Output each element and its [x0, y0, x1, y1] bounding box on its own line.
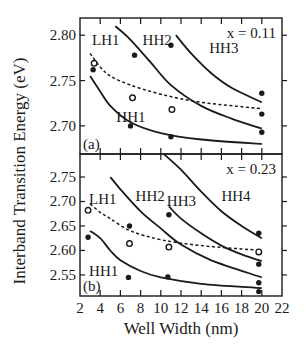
- y-tick-label: 2.70: [50, 118, 76, 134]
- data-point-filled: [259, 91, 264, 96]
- data-point-filled: [256, 289, 261, 294]
- y-tick-label: 2.70: [50, 193, 76, 209]
- curve-label-hh3: HH3: [209, 40, 238, 56]
- data-point-filled: [90, 67, 95, 72]
- data-point-filled: [256, 280, 261, 285]
- x-tick-label: 12: [174, 300, 189, 316]
- curve-label-hh2: HH2: [136, 188, 165, 204]
- curve-label-hh1: HH1: [89, 263, 118, 279]
- data-point-open: [91, 61, 97, 67]
- panel-label: (a): [83, 136, 100, 153]
- curve-label-hh1: HH1: [116, 109, 145, 125]
- curve-label-hh2: HH2: [143, 32, 172, 48]
- curve-label-lh1: LH1: [92, 32, 120, 48]
- y-tick-label: 2.65: [50, 218, 76, 234]
- panel-a-plot: 2.702.752.80HH1LH1HH2HH3(a)x = 0.11: [50, 18, 287, 154]
- curve-hh1: [90, 231, 262, 288]
- data-point-filled: [126, 275, 131, 280]
- y-tick-label: 2.75: [50, 169, 76, 185]
- curve-label-lh1: LH1: [89, 191, 117, 207]
- data-point-filled: [166, 212, 171, 217]
- data-point-filled: [259, 130, 264, 135]
- curve-lh1: [90, 53, 262, 108]
- x-tick-label: 16: [214, 300, 230, 316]
- y-tick-label: 2.80: [50, 27, 76, 43]
- x-axis-title: Well Width (nm): [124, 319, 239, 338]
- x-tick-label: 18: [234, 300, 249, 316]
- curve-hh3: [169, 206, 262, 261]
- y-tick-label: 2.55: [50, 267, 76, 283]
- x-tick-label: 4: [96, 300, 104, 316]
- panel-b-plot: 2468101214161820222.552.602.652.702.75HH…: [50, 154, 290, 316]
- x-tick-label: 14: [194, 300, 210, 316]
- x-tick-label: 6: [117, 300, 125, 316]
- y-axis-title: Interband Transition Energy (eV): [10, 58, 29, 285]
- data-point-filled: [128, 123, 133, 128]
- data-point-open: [85, 208, 91, 214]
- data-point-filled: [127, 223, 132, 228]
- data-point-filled: [85, 235, 90, 240]
- composition-annotation: x = 0.11: [227, 25, 276, 41]
- data-point-filled: [168, 134, 173, 139]
- x-tick-label: 8: [137, 300, 145, 316]
- y-tick-label: 2.60: [50, 242, 76, 258]
- data-point-open: [166, 244, 172, 250]
- data-point-filled: [165, 274, 170, 279]
- data-point-filled: [259, 111, 264, 116]
- data-point-open: [130, 95, 136, 101]
- curve-label-hh3: HH3: [167, 193, 196, 209]
- x-tick-label: 2: [76, 300, 84, 316]
- composition-annotation: x = 0.23: [226, 161, 276, 177]
- data-point-open: [256, 249, 262, 255]
- data-point-filled: [168, 43, 173, 48]
- figure: Interband Transition Energy (eV) Well Wi…: [0, 0, 306, 346]
- curve-lh1: [90, 204, 262, 251]
- data-point-filled: [256, 261, 261, 266]
- x-tick-label: 20: [254, 300, 269, 316]
- data-point-filled: [132, 52, 137, 57]
- data-point-open: [127, 241, 133, 247]
- panel-label: (b): [83, 278, 101, 295]
- data-point-open: [169, 107, 175, 113]
- y-tick-label: 2.75: [50, 73, 76, 89]
- curve-label-hh4: HH4: [221, 188, 251, 204]
- x-tick-label: 10: [153, 300, 168, 316]
- x-tick-label: 22: [275, 300, 290, 316]
- data-point-filled: [256, 231, 261, 236]
